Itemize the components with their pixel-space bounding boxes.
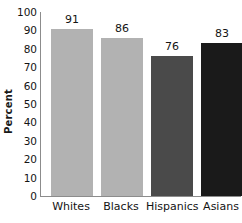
bar-value-label: 91 [51,14,93,25]
bar-slot: 83 [201,12,242,196]
x-label-whites: Whites [46,200,96,214]
bar-value-label: 83 [201,28,242,39]
bar-slot: 86 [101,12,143,196]
y-axis-tick-40: 40 [13,117,37,128]
bar-asians[interactable] [201,43,242,196]
bar-slot: 91 [51,12,93,196]
x-label-hispanics: Hispanics [146,200,196,214]
y-axis-tick-60: 60 [13,80,37,91]
y-axis-tick-labels: 1009080706050403020100 [12,0,37,223]
y-axis-tick-80: 80 [13,44,37,55]
bar-value-label: 86 [101,23,143,34]
x-axis-category-labels: WhitesBlacksHispanicsAsians [40,200,242,218]
bar-blacks[interactable] [101,38,143,196]
bars-container: 91867683 [41,12,241,196]
plot-area: 91867683 [40,12,241,197]
y-axis-tick-50: 50 [13,99,37,110]
bar-slot: 76 [151,12,193,196]
y-axis-tick-20: 20 [13,154,37,165]
y-axis-tick-70: 70 [13,62,37,73]
bar-hispanics[interactable] [151,56,193,196]
bar-chart: Percent 1009080706050403020100 91867683 … [0,0,242,223]
y-axis-tick-30: 30 [13,136,37,147]
y-axis-tick-90: 90 [13,25,37,36]
bar-value-label: 76 [151,41,193,52]
y-axis-tick-10: 10 [13,172,37,183]
x-label-blacks: Blacks [96,200,146,214]
bar-whites[interactable] [51,29,93,196]
y-axis-tick-0: 0 [13,191,37,202]
y-axis-tick-100: 100 [13,7,37,18]
x-label-asians: Asians [196,200,242,214]
